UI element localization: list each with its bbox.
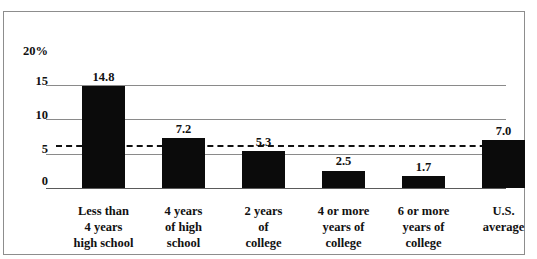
bar-value-label-5: 1.7 xyxy=(402,161,445,174)
chart-frame: 20% 15 10 5 0 14.8 7.2 5.3 2.5 1.7 xyxy=(3,11,525,255)
y-tick-label-10: 10 xyxy=(14,109,48,122)
bar-4-or-more-years-of-college xyxy=(322,171,365,188)
category-label-us-average: U.S. average xyxy=(452,203,537,235)
bar-value-label-6: 7.0 xyxy=(482,125,525,138)
y-tick-label-0: 0 xyxy=(14,175,48,188)
bar-value-label-4: 2.5 xyxy=(322,155,365,168)
bar-2-years-of-college xyxy=(242,151,285,188)
reference-line-dashed xyxy=(56,145,516,147)
bar-value-label-3: 5.3 xyxy=(242,136,285,149)
bar-4-years-of-high-school xyxy=(162,138,205,188)
gridline-0-baseline xyxy=(46,188,506,189)
bar-value-label-1: 14.8 xyxy=(82,71,125,84)
y-tick-label-15: 15 xyxy=(14,75,48,88)
chart-figure: 20% 15 10 5 0 14.8 7.2 5.3 2.5 1.7 xyxy=(0,0,537,259)
y-tick-label-5: 5 xyxy=(14,143,48,156)
category-line-2: average xyxy=(452,219,537,235)
category-line-3: college xyxy=(372,235,475,251)
bar-6-or-more-years-of-college xyxy=(402,176,445,188)
bar-less-than-4-years-high-school xyxy=(82,86,125,188)
y-tick-label-20: 20% xyxy=(14,45,48,58)
plot-area: 14.8 7.2 5.3 2.5 1.7 7.0 Less than 4 yea… xyxy=(64,50,524,188)
bar-us-average xyxy=(482,140,525,188)
bar-value-label-2: 7.2 xyxy=(162,123,205,136)
category-line-1: U.S. xyxy=(452,203,537,219)
